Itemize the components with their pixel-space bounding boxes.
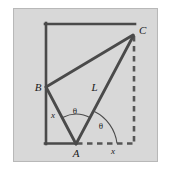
label-point-C: C [139,24,147,36]
label-segment-L: L [90,81,97,93]
label-segment-x-base: x [110,146,115,156]
label-angle-theta-lower: θ [99,121,103,131]
geometry-figure-root: C B A L x x θ θ [0,0,169,173]
label-segment-x-left: x [50,110,55,120]
geometry-figure-svg: C B A L x x θ θ [0,0,169,173]
label-point-B: B [35,81,42,93]
label-point-A: A [72,147,80,159]
label-angle-theta-upper: θ [73,106,77,116]
